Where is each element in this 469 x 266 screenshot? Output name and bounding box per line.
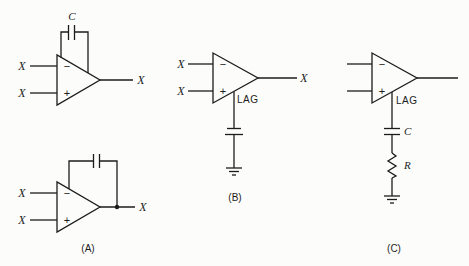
ground-symbol [384, 196, 400, 203]
resistor-zigzag [388, 153, 396, 178]
opamp-lag-circuits-diagram: X X − + X C X X − + X [0, 0, 469, 266]
input-label-inverting: X [17, 186, 26, 200]
circuit-a-bottom-opamp: X X − + X [17, 154, 147, 232]
input-label-noninverting: X [17, 213, 26, 227]
minus-sign: − [64, 60, 70, 72]
caption-a: (A) [81, 243, 94, 254]
plus-sign: + [64, 87, 70, 99]
feedback-wire-right [100, 161, 117, 207]
circuit-a-top-opamp: X X − + X C [17, 10, 145, 105]
ground-symbol [226, 168, 242, 175]
circuit-b-opamp: X X − + X LAG [176, 53, 308, 175]
caption-b: (B) [228, 192, 241, 203]
caption-c: (C) [387, 243, 401, 254]
input-label-noninverting: X [17, 86, 26, 100]
input-label-inverting: X [17, 59, 26, 73]
lag-label: LAG [237, 94, 259, 105]
minus-sign: − [379, 58, 385, 70]
feedback-capacitor-label: C [68, 10, 76, 22]
lag-label: LAG [396, 95, 418, 106]
circuit-c-opamp: − + LAG C R [347, 53, 458, 203]
feedback-wire-left [61, 32, 68, 58]
plus-sign: + [220, 85, 226, 97]
output-label: X [299, 71, 308, 85]
input-label-noninverting: X [176, 84, 185, 98]
feedback-wire-left [69, 161, 93, 189]
schematic-figure-page: X X − + X C X X − + X [0, 0, 469, 266]
resistor-label: R [403, 159, 411, 171]
plus-sign: + [64, 214, 70, 226]
output-label: X [136, 73, 145, 87]
output-label: X [138, 200, 147, 214]
input-label-inverting: X [176, 57, 185, 71]
capacitor-label: C [404, 125, 412, 137]
minus-sign: − [220, 58, 226, 70]
junction-dot [115, 205, 119, 209]
plus-sign: + [379, 85, 385, 97]
